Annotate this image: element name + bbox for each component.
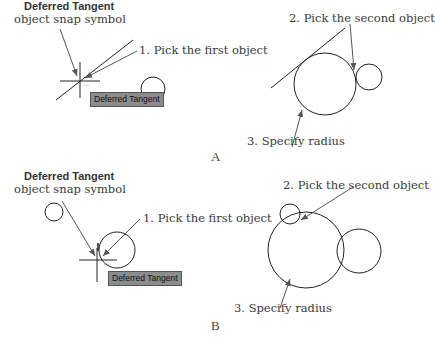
step1-label-a: 1. Pick the first object	[139, 43, 268, 57]
panel-a-right-drawing	[271, 24, 382, 147]
svg-text:...: ...	[104, 260, 109, 266]
panel-b-right-drawing	[268, 187, 381, 308]
panel-letter-b: B	[211, 318, 220, 334]
panel-a-left-drawing: ...	[56, 29, 165, 101]
step3-label-a: 3. Specify radius	[247, 134, 345, 148]
panel-letter-a: A	[211, 149, 220, 165]
panel-b-left-drawing: ...	[45, 201, 140, 282]
snap-symbol-title-a: Deferred Tangent	[24, 0, 114, 12]
step3-label-b: 3. Specify radius	[234, 301, 332, 315]
step1-label-b: 1. Pick the first object	[143, 211, 272, 225]
snap-symbol-subtitle-b: object snap symbol	[14, 182, 126, 196]
deferred-tangent-tooltip-b: Deferred Tangent	[108, 271, 182, 286]
svg-text:...: ...	[84, 81, 89, 87]
step2-label-a: 2. Pick the second object	[289, 11, 435, 25]
deferred-tangent-tooltip-a: Deferred Tangent	[90, 92, 164, 107]
step2-label-b: 2. Pick the second object	[283, 178, 429, 192]
snap-symbol-subtitle-a: object snap symbol	[14, 12, 126, 26]
snap-symbol-title-b: Deferred Tangent	[24, 170, 114, 182]
